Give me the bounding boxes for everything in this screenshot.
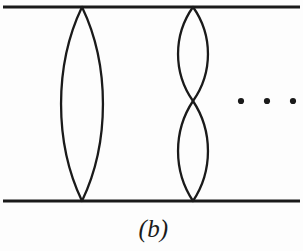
loop-double-lower xyxy=(178,101,208,201)
ellipsis-dot xyxy=(264,98,270,104)
loop-large-single xyxy=(61,7,103,201)
ellipsis-dot xyxy=(290,98,296,104)
loop-double-upper xyxy=(178,7,208,101)
ellipsis-dot xyxy=(238,98,244,104)
diagram-canvas xyxy=(0,0,303,251)
figure-container: (b) xyxy=(0,0,303,251)
